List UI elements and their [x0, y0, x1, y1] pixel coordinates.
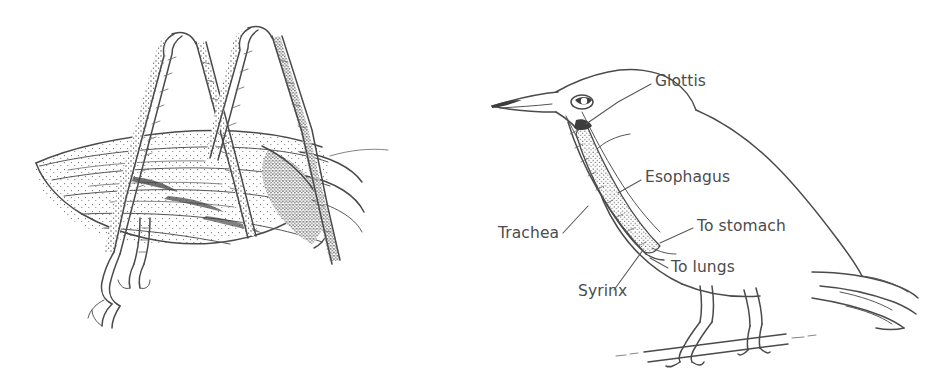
- label-to-stomach: To stomach: [696, 217, 786, 235]
- label-syrinx: Syrinx: [578, 282, 627, 300]
- label-esophagus: Esophagus: [645, 168, 730, 186]
- label-glottis: Glottis: [655, 72, 706, 90]
- figure-canvas: Glottis Esophagus Trachea To stomach To …: [0, 0, 932, 375]
- label-to-lungs: To lungs: [670, 258, 735, 276]
- label-trachea: Trachea: [497, 224, 559, 242]
- figure-root: Glottis Esophagus Trachea To stomach To …: [0, 0, 932, 375]
